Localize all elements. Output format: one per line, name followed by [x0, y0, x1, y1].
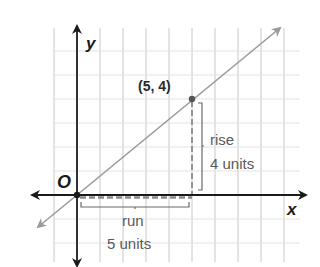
vertical-grid-lines — [54, 28, 284, 262]
coordinate-plane: y x O (5, 4) rise 4 units run 5 units — [0, 0, 320, 267]
origin-point — [74, 192, 80, 198]
run-label: run — [122, 212, 144, 229]
y-axis-label: y — [86, 35, 95, 53]
point-5-4 — [189, 96, 195, 102]
x-axis-label: x — [287, 201, 296, 219]
horizontal-grid-lines — [54, 51, 300, 243]
rise-amount-label: 4 units — [210, 155, 254, 172]
slope-line — [38, 195, 77, 227]
origin-label: O — [57, 173, 71, 191]
graph-svg — [0, 0, 320, 267]
run-bracket — [81, 202, 189, 209]
run-amount-label: 5 units — [107, 235, 151, 252]
rise-label: rise — [210, 131, 234, 148]
point-label: (5, 4) — [138, 78, 171, 94]
